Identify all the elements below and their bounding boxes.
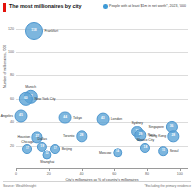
x-axis-tick: 20 [47,172,51,176]
bubble-value: 45 [19,115,23,118]
y-axis-tick: 40 [10,120,14,124]
x-axis-tick: 100 [177,172,183,176]
bubble-label: New York City [34,97,55,101]
bubble-label: London [111,117,122,121]
data-bubble[interactable]: 118 [25,22,43,40]
bubble-value: 43 [101,117,105,120]
data-bubble[interactable]: 14 [113,148,122,157]
bubble-value: 29 [139,133,143,136]
x-axis-line [16,168,188,169]
bubble-label: Munich [25,85,36,89]
bubble-value: 44 [63,116,67,119]
x-axis-tickmark [180,169,181,171]
x-axis-tick: 40 [80,172,84,176]
bubble-label: Toronto [63,134,74,138]
gridline [16,52,188,53]
bubble-label: Sydney [132,121,143,125]
bubble-value: 15 [162,150,165,153]
bubble-value: 17 [54,148,57,151]
data-bubble[interactable]: 45 [14,110,27,123]
legend: People with at least $1m in net worth*, … [103,4,186,9]
x-axis-tickmark [82,169,83,171]
y-axis-label: Number of millionaires, '000 [3,45,7,88]
data-bubble[interactable]: 17 [50,144,60,154]
data-bubble[interactable]: 28 [168,131,179,142]
footnote: *Excluding the primary residence [144,184,191,188]
x-axis-tick: 80 [145,172,149,176]
bubble-label: Chicago [21,140,33,144]
legend-label: People with at least $1m in net worth*, … [109,4,186,8]
chart-card: The most millionaires by city People wit… [0,0,194,193]
data-bubble[interactable]: 43 [96,112,109,125]
x-axis-label: City's millionaires as % of country's mi… [16,178,188,182]
bubble-value: 28 [80,135,84,138]
plot-area: 20406080100120020406080100118Frankfurt62… [16,17,188,169]
bubble-value: 118 [31,29,36,32]
bubble-value: 18 [144,146,148,149]
data-bubble[interactable]: 60 [19,92,33,106]
bubble-label: Los Angeles [0,114,13,118]
bubble-label: Moscow [99,151,111,155]
bubble-value: 60 [24,97,28,100]
bubble-value: 17 [26,148,29,151]
bubble-label: Mexico City [137,138,155,142]
bubble-label: Seoul [170,149,179,153]
x-axis-tick: 60 [112,172,116,176]
data-bubble[interactable]: 17 [22,144,32,154]
x-axis-tickmark [147,169,148,171]
bubble-value: 12 [46,154,49,157]
y-axis-tick: 80 [10,73,14,77]
data-bubble[interactable]: 18 [140,143,150,153]
x-axis-tick: 0 [15,172,17,176]
y-axis-tick: 60 [10,97,14,101]
x-axis-tickmark [114,169,115,171]
x-axis-tickmark [49,169,50,171]
source-note: Source: WealthInsight [3,184,36,188]
chart-title: The most millionaires by city [9,3,82,9]
bubble-label: Tokyo [73,116,82,120]
data-bubble[interactable]: 15 [159,147,169,157]
bubble-label: Shanghai [40,160,54,164]
brand-accent-bar [3,3,6,12]
x-axis-tickmark [16,169,17,171]
bubble-value: 36 [170,125,174,128]
y-axis-tick: 20 [10,144,14,148]
bubble-label: Singapore [149,125,164,129]
bubble-value: 14 [116,151,119,154]
y-axis-tick: 100 [8,50,14,54]
bubble-label: Dallas [37,137,46,141]
data-bubble[interactable]: 28 [76,131,87,142]
bubble-label: Frankfurt [45,29,59,33]
legend-bubble-icon [103,4,108,9]
gridline [16,75,188,76]
data-bubble[interactable]: 12 [43,150,52,159]
bubble-value: 19 [40,145,44,148]
y-axis-tick: 120 [8,27,14,31]
data-bubble[interactable]: 44 [59,111,72,124]
bubble-label: Beijing [62,147,72,151]
bubble-value: 28 [171,135,175,138]
